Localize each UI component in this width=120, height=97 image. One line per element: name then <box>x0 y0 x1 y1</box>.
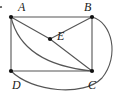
vertex-dot-d <box>9 69 13 73</box>
artifact-layer <box>0 6 2 8</box>
arc-A-to-C <box>11 17 92 71</box>
segment-EC <box>50 39 92 71</box>
arc-B-around-to-D <box>11 17 112 90</box>
vertex-label-d: D <box>12 79 21 91</box>
segment-layer <box>11 17 92 71</box>
geometry-figure: ABCDE <box>0 0 120 97</box>
crop-artifact-dot <box>0 6 2 8</box>
vertex-label-a: A <box>18 1 25 13</box>
vertex-dot-c <box>90 69 94 73</box>
vertex-dot-b <box>90 15 94 19</box>
vertex-label-c: C <box>88 79 96 91</box>
arc-layer <box>11 17 112 90</box>
vertex-label-e: E <box>57 30 64 42</box>
vertex-dot-a <box>9 15 13 19</box>
segment-AE <box>11 17 50 39</box>
vertex-dot-e <box>48 37 52 41</box>
vertex-label-b: B <box>84 1 91 13</box>
